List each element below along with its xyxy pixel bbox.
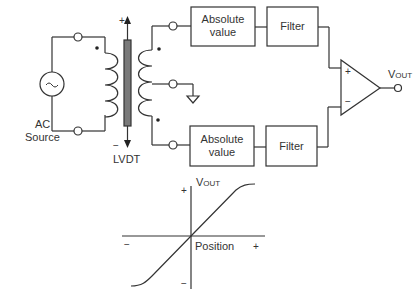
abs-label-line1: Absolute [190,133,254,146]
primary-coil [105,53,118,117]
abs-label-line1: Absolute [191,13,255,26]
output-terminal [395,85,402,92]
polarity-dot [156,118,160,122]
graph-x-plus: + [253,241,259,253]
graph-y-plus: + [181,185,187,197]
terminal [74,33,82,41]
graph-x-minus: − [124,239,130,251]
polarity-dot [95,46,99,50]
terminal [74,127,82,135]
polarity-dot [157,47,161,51]
graph-ylabel-sub: OUT [203,179,220,188]
lvdt-label: LVDT [113,153,140,165]
core-minus-label: − [113,140,119,152]
graph-y-minus: − [181,278,187,290]
vout-sub: OUT [395,71,412,80]
ac-source-label-1: AC [35,118,50,130]
terminal [169,141,177,149]
transfer-graph [122,184,265,289]
abs-value-top-label: Absolute value [191,13,255,39]
opamp-plus-label: + [345,66,351,78]
abs-value-bottom-label: Absolute value [190,133,254,159]
secondary-coil [139,50,153,116]
abs-label-line2: value [191,26,255,39]
terminal [169,80,177,88]
transfer-curve [131,184,255,286]
vout-label: VOUT [388,68,412,82]
ground-icon [187,96,199,103]
core-plus-label: + [119,15,125,27]
abs-label-line2: value [190,146,254,159]
lvdt-core [124,16,131,148]
filter-top-label: Filter [267,20,318,33]
ac-source-symbol [40,72,64,96]
terminal [169,22,177,30]
ac-source-label-2: Source [25,131,60,143]
opamp-minus-label: − [345,96,351,108]
graph-xlabel: Position [195,240,234,252]
graph-ylabel: VOUT [196,176,220,190]
filter-bottom-label: Filter [266,140,317,153]
